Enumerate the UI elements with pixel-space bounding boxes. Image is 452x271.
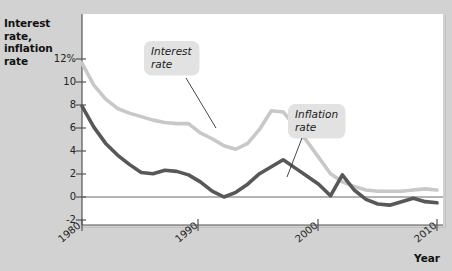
y-tick-marks xyxy=(76,59,86,220)
callout-interest-rate: Interest rate xyxy=(144,41,199,75)
callout-inflation-rate: Inflation rate xyxy=(288,104,345,138)
callout-inflation-rate-line1: Inflation xyxy=(295,108,338,121)
interest-callout-leader xyxy=(186,78,216,128)
callout-inflation-rate-line2: rate xyxy=(295,121,338,134)
callout-interest-rate-line1: Interest xyxy=(151,45,192,58)
chart-figure: Interest rate, inflation rate Year 12% 1… xyxy=(0,0,452,271)
callout-interest-rate-line2: rate xyxy=(151,58,192,71)
plot-svg xyxy=(0,0,452,271)
